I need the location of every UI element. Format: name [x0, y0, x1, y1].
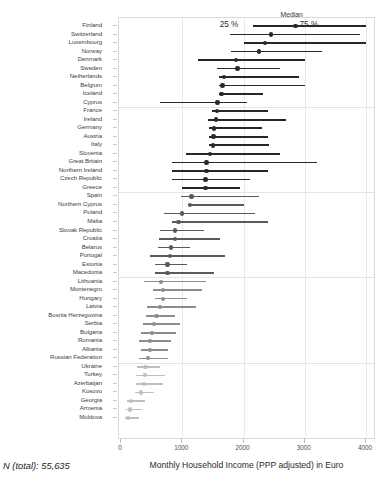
- y-axis-label: Hungary: [79, 294, 102, 302]
- x-axis-tick-label: 0: [118, 444, 122, 451]
- y-axis-label: Sweden: [80, 64, 102, 72]
- y-axis-label: Norway: [82, 47, 102, 55]
- median-dot: [180, 211, 184, 215]
- y-axis-tick: [113, 298, 117, 299]
- y-axis-tick: [113, 68, 117, 69]
- median-dot: [211, 143, 216, 148]
- median-dot: [150, 331, 154, 335]
- median-dot: [129, 399, 133, 403]
- y-axis-tick: [113, 230, 117, 231]
- whisker-range: [186, 153, 280, 155]
- median-dot: [189, 194, 193, 198]
- data-row: [119, 269, 374, 277]
- y-axis-labels: FinlandSwitzerlandLuxembourgNorwayDenmar…: [0, 17, 112, 439]
- median-dot: [257, 49, 262, 54]
- median-dot: [269, 32, 274, 37]
- whisker-range: [141, 332, 176, 334]
- y-axis-label: Latvia: [86, 302, 102, 310]
- data-row: [119, 82, 374, 90]
- median-dot: [143, 373, 147, 377]
- y-axis-tick: [113, 315, 117, 316]
- data-row: [119, 405, 374, 413]
- median-dot: [220, 83, 225, 88]
- y-axis-tick: [113, 119, 117, 120]
- y-axis-label: Portugal: [80, 251, 102, 259]
- y-axis-tick: [113, 76, 117, 77]
- whisker-range: [137, 366, 160, 368]
- data-row: [119, 286, 374, 294]
- median-dot: [215, 100, 220, 105]
- data-row: [119, 31, 374, 39]
- y-axis-label: Denmark: [78, 55, 102, 63]
- data-row: [119, 90, 374, 98]
- y-axis-tick: [113, 289, 117, 290]
- y-axis-tick: [113, 400, 117, 401]
- x-axis-title: Monthly Household Income (PPP adjusted) …: [118, 460, 375, 470]
- whisker-range: [150, 255, 225, 257]
- whisker-range: [155, 272, 214, 274]
- data-row: [119, 56, 374, 64]
- y-axis-tick: [113, 170, 117, 171]
- y-axis-tick: [113, 153, 117, 154]
- whisker-range: [230, 34, 360, 36]
- y-axis-tick: [113, 34, 117, 35]
- y-axis-label: Austria: [83, 132, 102, 140]
- median-dot: [148, 348, 152, 352]
- y-axis-tick: [113, 323, 117, 324]
- data-row: [119, 116, 374, 124]
- y-axis-label: Switzerland: [71, 30, 102, 38]
- y-axis-tick: [113, 136, 117, 137]
- whisker-range: [231, 51, 322, 53]
- median-dot: [146, 356, 150, 360]
- y-axis-label: Slovak Republic: [59, 226, 102, 234]
- y-axis-tick: [113, 247, 117, 248]
- data-row: [119, 278, 374, 286]
- data-row: [119, 252, 374, 260]
- median-dot: [211, 134, 216, 139]
- median-dot: [188, 203, 192, 207]
- median-dot: [263, 41, 268, 46]
- median-dot: [143, 365, 147, 369]
- y-axis-tick: [113, 110, 117, 111]
- median-dot: [219, 92, 224, 97]
- whisker-range: [244, 42, 367, 44]
- x-axis-tick-2000: [243, 439, 244, 443]
- data-row: [119, 312, 374, 320]
- data-row: [119, 380, 374, 388]
- data-row: [119, 371, 374, 379]
- y-axis-label: Armenia: [80, 404, 102, 412]
- data-row: [119, 39, 374, 47]
- data-row: [119, 295, 374, 303]
- legend-p75-label: 75 %: [300, 20, 319, 29]
- y-axis-tick: [113, 42, 117, 43]
- y-axis-label: Montenegro: [70, 285, 102, 293]
- y-axis-label: Czech Republic: [60, 174, 102, 182]
- median-dot: [139, 390, 143, 394]
- y-axis-label: Italy: [91, 140, 102, 148]
- y-axis-tick: [113, 306, 117, 307]
- y-axis-tick: [113, 332, 117, 333]
- y-axis-tick: [113, 93, 117, 94]
- y-axis-label: Ireland: [84, 115, 102, 123]
- whisker-range: [136, 383, 164, 385]
- data-row: [119, 150, 374, 158]
- chart-root: FinlandSwitzerlandLuxembourgNorwayDenmar…: [0, 0, 379, 492]
- y-axis-label: Finland: [82, 21, 102, 29]
- whisker-range: [164, 213, 255, 215]
- y-axis-tick: [113, 212, 117, 213]
- y-axis-tick: [113, 221, 117, 222]
- y-axis-label: Albania: [82, 345, 102, 353]
- data-row: [119, 388, 374, 396]
- median-dot: [173, 237, 177, 241]
- median-dot: [173, 228, 177, 232]
- data-row: [119, 124, 374, 132]
- y-axis-tick: [113, 340, 117, 341]
- y-axis-label: Great Britain: [68, 157, 102, 165]
- median-dot: [222, 75, 227, 80]
- y-axis-tick: [113, 255, 117, 256]
- median-dot: [203, 186, 208, 191]
- y-axis-label: Northern Cyprus: [58, 200, 102, 208]
- data-row: [119, 363, 374, 371]
- y-axis-label: Turkey: [84, 370, 102, 378]
- median-dot: [203, 177, 208, 182]
